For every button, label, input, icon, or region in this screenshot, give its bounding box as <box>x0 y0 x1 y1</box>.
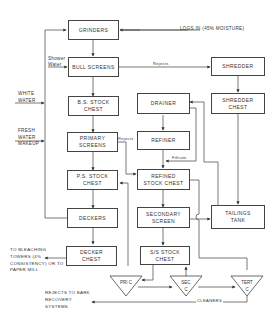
filtrate-label: Filtrate <box>172 155 187 162</box>
sec-cleaner-label: SEC C <box>174 279 198 293</box>
shredder-chest-node: SHREDDER CHEST <box>211 93 265 114</box>
drainer-node: DRAINER <box>137 93 190 114</box>
cleaners-label: CLEANERS <box>196 298 223 305</box>
rejects-bark-label: REJECTS TO BARK RECOVERY SYSTEMS <box>45 290 93 310</box>
shredder-node: SHREDDER <box>211 57 265 76</box>
shower-water-label: Shower Water <box>48 56 68 67</box>
refined-stock-chest-node: REFINED STOCK CHEST <box>137 169 190 190</box>
grinders-node: GRINDERS <box>68 20 119 40</box>
to-bleaching-label: TO BLEACHING TOWERS (4% CONSISTENCY) OR … <box>10 247 66 274</box>
flow-lines <box>0 0 280 323</box>
bull-screens-node: BULL SCREENS <box>68 57 119 77</box>
fresh-water-label: FRESH WATER MAKEUP <box>18 128 42 148</box>
primary-screens-node: PRIMARY SCREENS <box>67 132 118 152</box>
ss-stock-chest-node: S/S STOCK CHEST <box>140 246 190 265</box>
deckers-node: DECKERS <box>67 208 118 228</box>
logs-in-label: LOGS IN (45% MOISTURE) <box>180 26 244 33</box>
tailings-tank-node: TAILINGS TANK <box>211 205 265 229</box>
decker-chest-node: DECKER CHEST <box>66 246 117 266</box>
rejects-mid-label: Rejects <box>118 136 133 143</box>
refiner-node: REFINER <box>137 131 190 150</box>
rejects-top-label: Rejects <box>153 61 168 68</box>
pri-cleaner-label: PRI C <box>114 279 138 286</box>
white-water-label: WHITE WATER <box>18 91 42 104</box>
ps-stock-chest-node: P.S. STOCK CHEST <box>67 170 118 190</box>
secondary-screen-node: SECONDARY SCREEN <box>137 207 190 228</box>
bs-stock-chest-node: B.S. STOCK CHEST <box>68 96 119 116</box>
tert-cleaner-label: TERT C <box>235 279 259 293</box>
